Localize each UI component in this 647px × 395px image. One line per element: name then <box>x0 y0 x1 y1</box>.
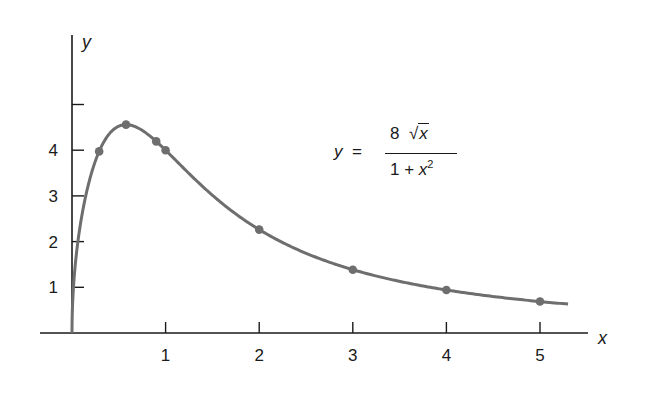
data-point <box>95 147 104 156</box>
data-point <box>122 120 131 129</box>
data-point <box>255 225 264 234</box>
marked-points <box>95 120 544 306</box>
y-tick-label: 1 <box>49 278 58 297</box>
numerator-var: x <box>419 124 428 143</box>
equation-lhs: y <box>334 142 343 162</box>
x-axis-label: x <box>597 328 608 348</box>
x-ticks: 12345 <box>161 322 545 365</box>
denominator-const: 1 + <box>390 160 419 179</box>
x-tick-label: 5 <box>535 346 544 365</box>
data-point <box>349 265 358 274</box>
y-ticks: 1234 <box>49 105 84 298</box>
equation-equals: = <box>352 142 362 162</box>
data-point <box>152 137 161 146</box>
x-tick-label: 2 <box>254 346 263 365</box>
x-tick-label: 1 <box>161 346 170 365</box>
equation-numerator: 8 √x <box>390 124 429 144</box>
equation-label: y = 8 √x 1 + x2 <box>330 124 460 194</box>
equation-denominator: 1 + x2 <box>390 158 433 180</box>
data-point <box>442 286 451 295</box>
chart-plot: 12345 1234 x y <box>0 0 647 395</box>
y-axis-label: y <box>80 32 92 52</box>
x-tick-label: 3 <box>348 346 357 365</box>
fraction-bar <box>385 153 457 154</box>
function-curve <box>72 125 568 333</box>
y-tick-label: 4 <box>49 141 58 160</box>
y-tick-label: 2 <box>49 233 58 252</box>
y-tick-label: 3 <box>49 187 58 206</box>
x-tick-label: 4 <box>442 346 451 365</box>
data-point <box>536 297 545 306</box>
denominator-exp: 2 <box>427 158 433 170</box>
data-point <box>161 146 170 155</box>
numerator-coef: 8 <box>390 124 399 143</box>
